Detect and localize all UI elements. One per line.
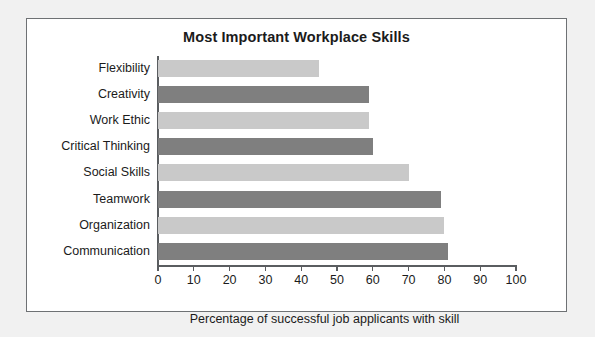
bar-row: Teamwork xyxy=(158,187,516,213)
x-tick-label: 20 xyxy=(210,272,250,288)
category-label: Communication xyxy=(63,242,150,260)
category-label: Social Skills xyxy=(83,163,150,181)
x-tick xyxy=(265,266,266,271)
bar-row: Creativity xyxy=(158,82,516,108)
x-tick-label: 70 xyxy=(389,272,429,288)
x-tick xyxy=(336,266,337,271)
bar-row: Work Ethic xyxy=(158,108,516,134)
x-tick-label: 0 xyxy=(138,272,178,288)
x-tick xyxy=(229,266,230,271)
bar xyxy=(158,243,448,260)
x-tick xyxy=(408,266,409,271)
chart-title: Most Important Workplace Skills xyxy=(27,29,566,45)
screenshot-root: Most Important Workplace Skills Flexibil… xyxy=(0,0,595,337)
category-label: Critical Thinking xyxy=(61,137,150,155)
x-tick xyxy=(372,266,373,271)
bar xyxy=(158,164,409,181)
bar xyxy=(158,191,441,208)
x-tick xyxy=(193,266,194,271)
category-label: Organization xyxy=(79,216,150,234)
x-tick xyxy=(480,266,481,271)
bar-row: Social Skills xyxy=(158,160,516,186)
x-tick-label: 80 xyxy=(424,272,464,288)
x-tick-label: 30 xyxy=(245,272,285,288)
x-tick-label: 60 xyxy=(353,272,393,288)
x-tick xyxy=(301,266,302,271)
x-tick-label: 90 xyxy=(460,272,500,288)
x-tick-label: 50 xyxy=(317,272,357,288)
x-tick xyxy=(515,266,516,271)
x-axis-title: Percentage of successful job applicants … xyxy=(27,312,595,326)
category-label: Work Ethic xyxy=(90,111,150,129)
bar-row: Communication xyxy=(158,239,516,265)
x-tick xyxy=(157,266,158,271)
x-tick xyxy=(444,266,445,271)
plot-area: FlexibilityCreativityWork EthicCritical … xyxy=(158,56,516,265)
bar-row: Critical Thinking xyxy=(158,134,516,160)
bar xyxy=(158,217,444,234)
category-label: Creativity xyxy=(98,85,150,103)
x-tick-label: 40 xyxy=(281,272,321,288)
x-tick-label: 100 xyxy=(496,272,536,288)
bar xyxy=(158,138,373,155)
x-tick-label: 10 xyxy=(174,272,214,288)
bar-row: Flexibility xyxy=(158,56,516,82)
category-label: Flexibility xyxy=(99,59,150,77)
bar xyxy=(158,112,369,129)
bar xyxy=(158,60,319,77)
category-label: Teamwork xyxy=(93,190,150,208)
bar-row: Organization xyxy=(158,213,516,239)
bar xyxy=(158,86,369,103)
chart-figure-frame: Most Important Workplace Skills Flexibil… xyxy=(26,18,567,312)
